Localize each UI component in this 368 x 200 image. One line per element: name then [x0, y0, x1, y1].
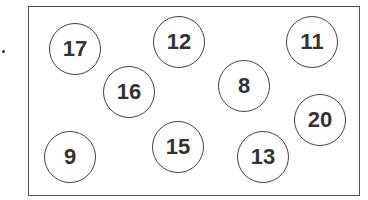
- circle-label: 16: [117, 79, 141, 105]
- circle-label: 8: [238, 73, 250, 99]
- number-circle: 12: [153, 16, 205, 68]
- circle-label: 20: [308, 107, 332, 133]
- number-circle: 17: [49, 23, 101, 75]
- number-circle: 9: [44, 131, 96, 183]
- circle-label: 12: [167, 29, 191, 55]
- circle-label: 17: [63, 36, 87, 62]
- number-circle: 15: [152, 121, 204, 173]
- number-circle: 20: [294, 94, 346, 146]
- circle-label: 11: [300, 29, 323, 55]
- circle-label: 15: [166, 134, 190, 160]
- number-circle: 13: [237, 131, 289, 183]
- number-circle: 16: [103, 66, 155, 118]
- number-circle: 11: [286, 16, 338, 68]
- bullet-dot: [2, 50, 5, 53]
- circle-label: 9: [64, 144, 76, 170]
- circle-label: 13: [251, 144, 275, 170]
- number-circle: 8: [218, 60, 270, 112]
